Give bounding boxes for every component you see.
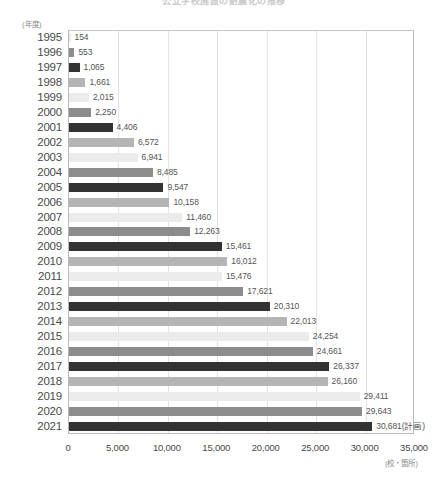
bar-row: 201217,621	[0, 284, 448, 299]
bar-row: 200711,460	[0, 210, 448, 225]
year-label: 2014	[0, 314, 62, 329]
x-axis-tick-label: 25,000	[301, 441, 329, 455]
x-axis-tick-label: 0	[65, 441, 70, 455]
year-label: 2007	[0, 210, 62, 225]
bar-row: 201826,160	[0, 374, 448, 389]
bar-row: 19971,065	[0, 60, 448, 75]
bar-row: 202130,681(計画)	[0, 419, 448, 434]
bar-value-label: 15,461	[226, 239, 251, 254]
bar	[69, 213, 182, 222]
bar-value-label: 4,406	[117, 120, 138, 135]
bar	[69, 33, 71, 42]
bar-row: 201115,476	[0, 269, 448, 284]
bar-value-label: 9,547	[167, 180, 188, 195]
bar	[69, 183, 163, 192]
bar	[69, 198, 169, 207]
bar-value-label: 30,681(計画)	[376, 419, 425, 434]
bar	[69, 108, 91, 117]
x-axis-tick-label: 15,000	[202, 441, 230, 455]
bar	[69, 153, 138, 162]
year-label: 2009	[0, 239, 62, 254]
bar-row: 20014,406	[0, 120, 448, 135]
bar	[69, 63, 80, 72]
year-label: 2019	[0, 389, 62, 404]
bar	[69, 377, 328, 386]
bar-value-label: 553	[78, 45, 92, 60]
bar	[69, 332, 309, 341]
bar	[69, 227, 190, 236]
bar	[69, 392, 360, 401]
bar-value-label: 26,337	[333, 359, 358, 374]
x-axis-ticks: 05,00010,00015,00020,00025,00030,00035,0…	[0, 441, 448, 457]
x-axis-tick-label: 30,000	[351, 441, 379, 455]
bar-value-label: 154	[75, 30, 89, 45]
bar	[69, 168, 153, 177]
bar-row: 200915,461	[0, 239, 448, 254]
x-axis-tick-label: 5,000	[106, 441, 129, 455]
year-label: 2016	[0, 344, 62, 359]
bar	[69, 422, 372, 431]
bar	[69, 257, 227, 266]
year-label: 2013	[0, 299, 62, 314]
bar-value-label: 6,941	[142, 150, 163, 165]
year-label: 2000	[0, 105, 62, 120]
year-label: 1997	[0, 60, 62, 75]
bar-value-label: 11,460	[186, 210, 211, 225]
year-label: 1996	[0, 45, 62, 60]
year-label: 2002	[0, 135, 62, 150]
bar-row: 200812,263	[0, 224, 448, 239]
bar-value-label: 12,263	[194, 224, 219, 239]
year-label: 2018	[0, 374, 62, 389]
year-label: 1999	[0, 90, 62, 105]
year-label: 2008	[0, 224, 62, 239]
bar-value-label: 29,411	[364, 389, 389, 404]
bar-row: 201422,013	[0, 314, 448, 329]
year-label: 2004	[0, 165, 62, 180]
bar-value-label: 2,250	[95, 105, 116, 120]
bar-row: 201726,337	[0, 359, 448, 374]
bar-value-label: 26,160	[332, 374, 357, 389]
bar	[69, 48, 74, 57]
bar-value-label: 2,015	[93, 90, 114, 105]
bar-row: 202029,643	[0, 404, 448, 419]
year-label: 2010	[0, 254, 62, 269]
bar-value-label: 17,621	[247, 284, 272, 299]
year-label: 1998	[0, 75, 62, 90]
x-axis-tick-label: 10,000	[153, 441, 181, 455]
year-label: 2012	[0, 284, 62, 299]
year-label: 2017	[0, 359, 62, 374]
y-axis-unit-label: (年度)	[22, 18, 42, 29]
bar	[69, 317, 287, 326]
bar-row: 201624,661	[0, 344, 448, 359]
bar-row: 19992,015	[0, 90, 448, 105]
bar-row: 20036,941	[0, 150, 448, 165]
bar-value-label: 22,013	[291, 314, 316, 329]
year-label: 2021	[0, 419, 62, 434]
bar-value-label: 15,476	[226, 269, 251, 284]
bar	[69, 138, 134, 147]
year-label: 1995	[0, 30, 62, 45]
bar-value-label: 6,572	[138, 135, 159, 150]
bar-row: 201929,411	[0, 389, 448, 404]
bar-value-label: 10,158	[173, 195, 198, 210]
bar	[69, 242, 222, 251]
bar	[69, 272, 222, 281]
year-label: 2001	[0, 120, 62, 135]
year-label: 2011	[0, 269, 62, 284]
year-label: 2015	[0, 329, 62, 344]
year-label: 2020	[0, 404, 62, 419]
bar	[69, 347, 313, 356]
x-axis-tick-label: 35,000	[400, 441, 428, 455]
bar-row: 20002,250	[0, 105, 448, 120]
bar-row: 20026,572	[0, 135, 448, 150]
bar-value-label: 1,065	[84, 60, 105, 75]
bar	[69, 123, 113, 132]
bar	[69, 302, 270, 311]
bar	[69, 407, 362, 416]
bar-value-label: 1,661	[89, 75, 110, 90]
bar-row: 1995154	[0, 30, 448, 45]
bar-row: 201524,254	[0, 329, 448, 344]
x-axis-tick-label: 20,000	[252, 441, 280, 455]
bar	[69, 287, 243, 296]
bar-row: 201320,310	[0, 299, 448, 314]
